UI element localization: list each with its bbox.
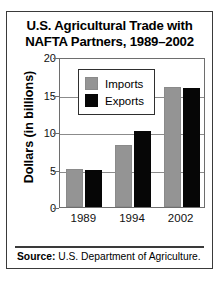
chart-title-line-1: U.S. Agricultural Trade with <box>7 18 212 34</box>
bar-exports-1994 <box>134 131 151 207</box>
legend-label-exports: Exports <box>105 95 144 107</box>
chart-title: U.S. Agricultural Trade with NAFTA Partn… <box>7 18 212 50</box>
legend-swatch-exports-icon <box>85 94 98 107</box>
x-tick-label-1989: 1989 <box>60 212 106 224</box>
bar-exports-1989 <box>85 170 102 207</box>
legend-swatch-imports-icon <box>85 77 98 90</box>
source-text: U.S. Department of Agriculture. <box>55 251 200 262</box>
bar-group-2002 <box>157 59 206 207</box>
y-tick-mark-0 <box>53 208 59 209</box>
legend-item-exports: Exports <box>85 92 144 109</box>
chart-figure: U.S. Agricultural Trade with NAFTA Partn… <box>6 11 213 269</box>
bar-imports-1994 <box>115 145 132 207</box>
bar-imports-1989 <box>66 169 83 207</box>
x-tick-label-2002: 2002 <box>158 212 204 224</box>
plot-wrapper: Dollars (in billions) 05101520 Imports E… <box>7 56 214 233</box>
chart-legend: Imports Exports <box>78 69 155 115</box>
source-label: Source: <box>17 251 55 262</box>
chart-title-line-2: NAFTA Partners, 1989–2002 <box>7 34 212 50</box>
bar-exports-2002 <box>183 88 200 207</box>
bar-imports-2002 <box>164 87 181 207</box>
legend-item-imports: Imports <box>85 75 144 92</box>
legend-label-imports: Imports <box>105 78 143 90</box>
source-note: Source: U.S. Department of Agriculture. <box>17 251 207 262</box>
plot-area: Imports Exports <box>59 58 205 208</box>
source-divider <box>15 246 204 248</box>
x-tick-label-1994: 1994 <box>109 212 155 224</box>
